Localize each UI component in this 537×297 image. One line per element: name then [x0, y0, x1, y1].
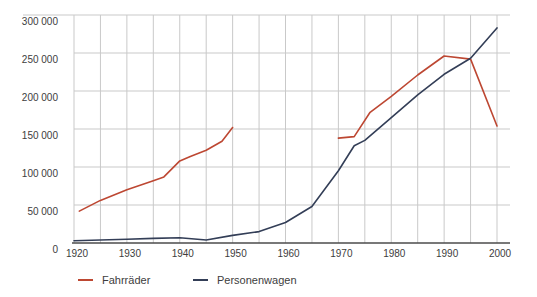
y-tick-label: 0 — [52, 244, 58, 255]
legend-item-personenwagen: Personenwagen — [193, 273, 297, 287]
x-tick-label: 1970 — [330, 248, 353, 259]
legend-swatch-fahrraeder-icon — [78, 279, 93, 281]
y-tick-label: 200 000 — [22, 92, 59, 103]
line-chart: 050 000100 000150 000200 000250 000300 0… — [0, 0, 537, 297]
x-tick-label: 1920 — [66, 248, 89, 259]
legend-label-fahrraeder: Fahrräder — [102, 273, 150, 287]
x-tick-label: 1980 — [383, 248, 406, 259]
y-tick-label: 150 000 — [22, 130, 59, 141]
y-tick-label: 250 000 — [22, 54, 59, 65]
x-tick-label: 1990 — [436, 248, 459, 259]
x-tick-label: 1960 — [277, 248, 300, 259]
x-tick-label: 2000 — [489, 248, 512, 259]
legend-swatch-personenwagen-icon — [193, 279, 208, 281]
x-tick-label: 1940 — [172, 248, 195, 259]
legend-label-personenwagen: Personenwagen — [217, 273, 297, 287]
series-line-fahrrder — [79, 128, 232, 212]
legend: Fahrräder Personenwagen — [0, 273, 537, 289]
y-tick-label: 50 000 — [27, 206, 58, 217]
chart-container: 050 000100 000150 000200 000250 000300 0… — [0, 0, 537, 297]
legend-item-fahrraeder: Fahrräder — [78, 273, 150, 287]
y-tick-label: 300 000 — [22, 16, 59, 27]
x-tick-label: 1950 — [225, 248, 248, 259]
x-tick-label: 1930 — [119, 248, 142, 259]
y-tick-label: 100 000 — [22, 168, 59, 179]
